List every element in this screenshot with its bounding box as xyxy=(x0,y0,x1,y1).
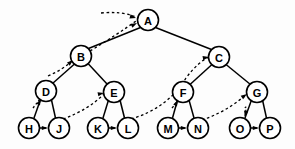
node-label-g: G xyxy=(253,87,262,99)
tree-node-n[interactable]: N xyxy=(188,118,209,139)
tree-node-g[interactable]: G xyxy=(247,82,268,103)
tree-node-m[interactable]: M xyxy=(158,118,179,139)
tree-node-a[interactable]: A xyxy=(138,10,159,31)
child-edge-e-k xyxy=(103,100,109,118)
tree-node-p[interactable]: P xyxy=(260,118,281,139)
node-label-n: N xyxy=(194,123,202,135)
tree-node-o[interactable]: O xyxy=(230,118,251,139)
tree-node-f[interactable]: F xyxy=(173,82,194,103)
tree-node-l[interactable]: L xyxy=(118,118,139,139)
child-edge-g-p xyxy=(263,100,267,118)
child-edge-c-g xyxy=(226,65,251,85)
child-edge-g-o xyxy=(245,100,252,118)
threaded-binary-tree-svg: ABCDEFGHJKLMNOP xyxy=(0,0,295,149)
arrowhead-k-to-l xyxy=(111,126,117,130)
node-label-f: F xyxy=(180,87,187,99)
node-label-p: P xyxy=(266,123,273,135)
child-edge-e-l xyxy=(120,100,125,118)
tree-node-c[interactable]: C xyxy=(209,47,230,68)
thread-edge-b-to-a xyxy=(90,21,136,51)
thread-edge-n-to-g xyxy=(202,94,247,120)
arrowhead-h-to-j xyxy=(42,126,48,130)
child-edge-layer xyxy=(34,28,267,119)
node-layer: ABCDEFGHJKLMNOP xyxy=(19,10,281,139)
node-label-b: B xyxy=(77,51,85,63)
tree-node-b[interactable]: B xyxy=(71,46,92,67)
child-edge-a-c xyxy=(156,28,212,50)
tree-node-d[interactable]: D xyxy=(36,81,57,102)
node-label-j: J xyxy=(56,123,62,135)
child-edge-a-b xyxy=(89,28,141,49)
thread-edge-l-to-c xyxy=(131,57,209,119)
tree-node-k[interactable]: K xyxy=(88,118,109,139)
arrowhead-m-to-n xyxy=(181,126,187,130)
node-label-m: M xyxy=(163,123,172,135)
node-label-o: O xyxy=(236,123,245,135)
arrowhead-o-to-p xyxy=(253,126,259,130)
child-edge-d-j xyxy=(52,100,56,118)
node-label-d: D xyxy=(42,86,50,98)
tree-node-e[interactable]: E xyxy=(104,82,125,103)
tree-node-j[interactable]: J xyxy=(49,118,70,139)
thread-edge-j-to-e xyxy=(63,94,104,119)
node-label-a: A xyxy=(144,15,152,27)
tree-node-h[interactable]: H xyxy=(19,118,40,139)
child-edge-c-f xyxy=(190,65,212,85)
child-edge-f-n xyxy=(189,100,194,118)
node-label-h: H xyxy=(25,123,33,135)
node-label-k: K xyxy=(94,123,102,135)
node-label-l: L xyxy=(125,123,132,135)
node-label-c: C xyxy=(215,52,223,64)
node-label-e: E xyxy=(110,87,117,99)
child-edge-b-e xyxy=(88,64,108,85)
diagram-canvas: ABCDEFGHJKLMNOP xyxy=(0,0,295,149)
